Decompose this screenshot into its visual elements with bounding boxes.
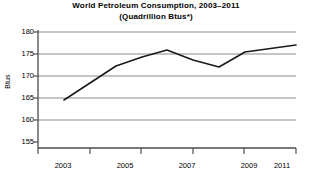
data-series-line (64, 45, 296, 100)
y-gridlines (38, 32, 296, 120)
chart-figure: World Petroleum Consumption, 2003–2011 (… (0, 0, 312, 176)
x-axis-ticks (38, 148, 296, 154)
plot-area (0, 0, 312, 176)
y-axis-ticks (33, 32, 38, 142)
